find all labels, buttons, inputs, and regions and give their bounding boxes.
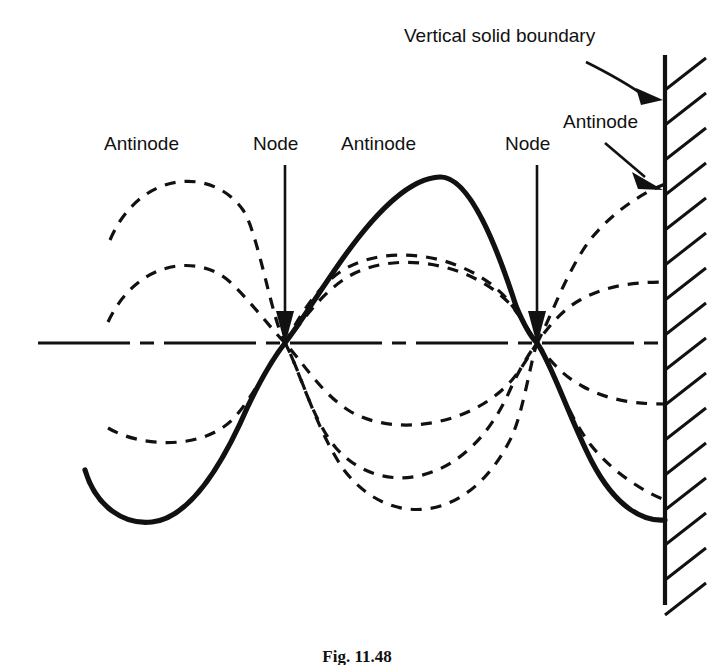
wave-curve-solid-maximum — [85, 177, 665, 522]
label-node-right: Node — [505, 133, 550, 154]
label-antinode-left: Antinode — [104, 133, 179, 154]
label-antinode-middle: Antinode — [341, 133, 416, 154]
figure-root: Vertical solid boundary Antinode Node An… — [0, 0, 714, 665]
wave-curve-snapshot-medium-mirror — [108, 265, 665, 425]
antinode-right-arrowhead — [632, 172, 663, 190]
wave-curve-snapshot-large — [285, 255, 665, 500]
boundary-wall-hatching — [665, 58, 706, 615]
standing-wave-diagram: Vertical solid boundary Antinode Node An… — [0, 0, 714, 665]
figure-caption: Fig. 11.48 — [322, 647, 391, 665]
antinode-right-leader — [605, 143, 645, 177]
label-antinode-right: Antinode — [563, 111, 638, 132]
label-node-left: Node — [253, 133, 298, 154]
node-left-arrowhead — [276, 311, 294, 345]
wave-curve-snapshot-medium — [108, 262, 665, 442]
label-vertical-solid-boundary: Vertical solid boundary — [404, 25, 596, 46]
node-right-arrowhead — [528, 311, 546, 345]
boundary-callout-arrowhead — [636, 88, 663, 105]
boundary-callout-leader — [586, 62, 646, 97]
